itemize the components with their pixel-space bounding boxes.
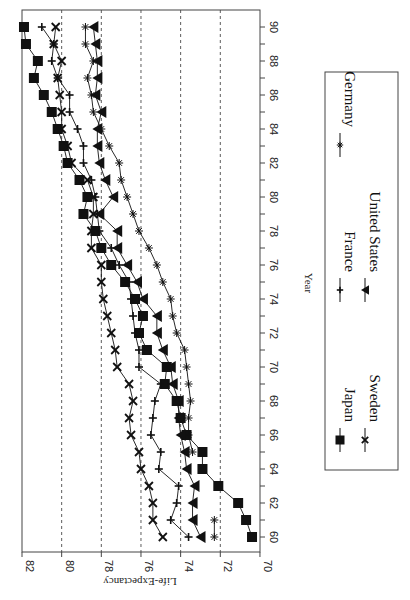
asterisk-marker-icon <box>81 40 89 48</box>
triangle-marker-icon <box>94 208 104 220</box>
plus-marker-icon <box>129 312 137 320</box>
asterisk-marker-icon <box>189 448 197 456</box>
triangle-marker-icon <box>94 157 104 169</box>
square-marker-icon <box>138 311 148 321</box>
plus-marker-icon <box>135 363 143 371</box>
legend-label: Sweden <box>367 375 383 423</box>
asterisk-marker-icon <box>183 363 191 371</box>
plus-marker-icon <box>66 91 74 99</box>
asterisk-marker-icon <box>210 516 218 524</box>
asterisk-marker-icon <box>83 74 91 82</box>
y-tick-label: 82 <box>24 560 36 572</box>
x-tick-label: 86 <box>268 89 280 101</box>
x-marker-icon <box>107 329 115 337</box>
x-marker-icon <box>145 482 153 490</box>
square-marker-icon <box>247 532 257 542</box>
x-tick-label: 84 <box>268 123 280 135</box>
asterisk-marker-icon <box>135 227 143 235</box>
square-marker-icon <box>241 515 251 525</box>
plus-marker-icon <box>149 414 157 422</box>
asterisk-marker-icon <box>181 346 189 354</box>
square-marker-icon <box>21 39 31 49</box>
x-marker-icon <box>159 533 167 541</box>
square-marker-icon <box>197 447 207 457</box>
x-tick-label: 78 <box>268 225 280 237</box>
triangle-marker-icon <box>180 446 190 458</box>
asterisk-marker-icon <box>185 431 193 439</box>
x-tick-label: 64 <box>268 463 280 475</box>
legend-label: United States <box>367 192 383 273</box>
triangle-marker-icon <box>195 531 205 543</box>
y-tick-label: 74 <box>183 560 195 572</box>
square-marker-icon <box>29 73 39 83</box>
triangle-marker-icon <box>158 344 168 356</box>
asterisk-marker-icon <box>129 210 137 218</box>
asterisk-marker-icon <box>89 108 97 116</box>
asterisk-marker-icon <box>173 329 181 337</box>
series-sweden <box>50 23 167 541</box>
plus-marker-icon <box>66 108 74 116</box>
asterisk-marker-icon <box>153 261 161 269</box>
series-france <box>38 23 193 541</box>
triangle-marker-icon <box>190 480 200 492</box>
asterisk-marker-icon <box>187 397 195 405</box>
x-tick-label: 82 <box>268 157 280 169</box>
square-marker-icon <box>336 436 345 445</box>
triangle-marker-icon <box>90 38 100 50</box>
asterisk-marker-icon <box>123 193 131 201</box>
x-axis-title: Year <box>303 273 315 294</box>
asterisk-marker-icon <box>115 159 123 167</box>
y-tick-label: 76 <box>143 560 155 572</box>
asterisk-marker-icon <box>185 380 193 388</box>
y-axis-title: Life-Expectancy <box>103 576 177 588</box>
asterisk-marker-icon <box>145 244 153 252</box>
life-expectancy-chart: 7072747678808260626466687072747678808284… <box>0 0 410 600</box>
asterisk-marker-icon <box>169 312 177 320</box>
legend-label: France <box>342 231 358 272</box>
square-marker-icon <box>33 56 43 66</box>
plus-marker-icon <box>38 23 46 31</box>
x-marker-icon <box>129 397 137 405</box>
x-tick-label: 66 <box>268 429 280 441</box>
legend-label: Japan <box>342 388 358 423</box>
square-marker-icon <box>96 243 106 253</box>
x-tick-label: 68 <box>268 395 280 407</box>
y-tick-label: 78 <box>103 560 115 572</box>
x-tick-label: 62 <box>268 497 280 509</box>
asterisk-marker-icon <box>117 176 125 184</box>
plus-marker-icon <box>147 431 155 439</box>
x-tick-label: 70 <box>268 361 280 373</box>
legend: JapanFranceGermanySwedenUnited States <box>325 71 398 470</box>
x-marker-icon <box>103 312 111 320</box>
asterisk-marker-icon <box>167 295 175 303</box>
square-marker-icon <box>197 464 207 474</box>
asterisk-marker-icon <box>105 142 113 150</box>
x-tick-label: 60 <box>268 531 280 543</box>
triangle-marker-icon <box>100 174 110 186</box>
square-marker-icon <box>213 481 223 491</box>
y-tick-label: 70 <box>262 560 274 572</box>
asterisk-marker-icon <box>159 278 167 286</box>
square-marker-icon <box>39 90 49 100</box>
triangle-marker-icon <box>88 21 98 33</box>
square-marker-icon <box>19 22 29 32</box>
asterisk-marker-icon <box>185 414 193 422</box>
plus-marker-icon <box>115 261 123 269</box>
triangle-marker-icon <box>132 276 142 288</box>
triangle-marker-icon <box>122 259 132 271</box>
plus-marker-icon <box>74 125 82 133</box>
asterisk-marker-icon <box>337 142 343 148</box>
x-marker-icon <box>125 380 133 388</box>
plus-marker-icon <box>48 57 56 65</box>
y-tick-label: 80 <box>64 560 76 572</box>
asterisk-marker-icon <box>210 533 218 541</box>
legend-label: Germany <box>342 71 358 127</box>
square-marker-icon <box>106 260 116 270</box>
x-tick-label: 90 <box>268 21 280 33</box>
series-united-states <box>88 21 205 543</box>
plus-marker-icon <box>135 346 143 354</box>
square-marker-icon <box>47 107 57 117</box>
legend-box <box>325 72 398 470</box>
square-marker-icon <box>233 498 243 508</box>
x-tick-label: 72 <box>268 327 280 339</box>
